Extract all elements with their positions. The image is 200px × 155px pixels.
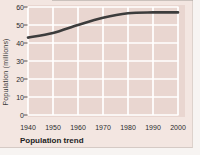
x-tick-label-1990: 1990 [140,123,166,132]
x-tick-label-1940: 1940 [15,123,41,132]
line-chart-plot-area [28,5,185,117]
scan-edge-line [52,0,193,1]
chart-caption: Population trend [20,136,84,145]
figure-page: 0102030405060 19401950196019701980199020… [0,0,200,155]
x-tick-label-2000: 2000 [165,123,191,132]
y-tick-label-60: 60 [4,3,24,12]
y-axis-title: Population (millions) [2,38,9,105]
x-tick-label-1950: 1950 [40,123,66,132]
y-tick-label-0: 0 [4,111,24,120]
x-tick-label-1970: 1970 [90,123,116,132]
y-tick-label-50: 50 [4,21,24,30]
x-tick-label-1980: 1980 [115,123,141,132]
population-line-chart [28,5,185,117]
x-tick-label-1960: 1960 [65,123,91,132]
